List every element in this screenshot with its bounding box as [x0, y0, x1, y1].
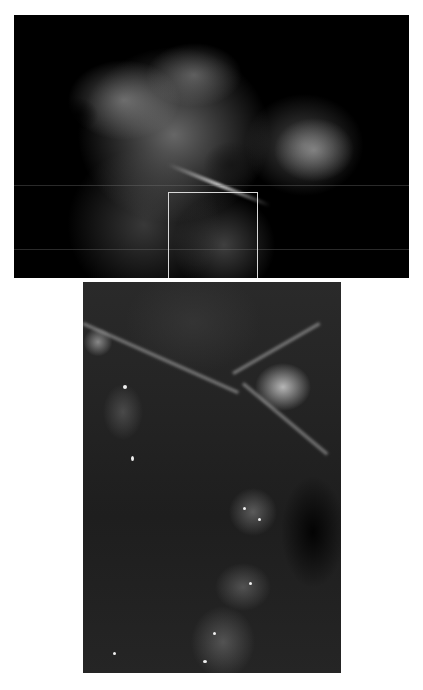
calcification-speck [213, 632, 216, 635]
calcification-speck [249, 582, 252, 585]
region-of-interest-box [168, 192, 258, 278]
mammogram-overview [14, 15, 409, 278]
calcification-speck [203, 660, 207, 663]
calcification-speck [131, 456, 134, 461]
magnified-roi [83, 282, 341, 673]
calcification-speck [113, 652, 116, 655]
scan-artifact-line [14, 185, 409, 186]
calcification-speck [258, 518, 261, 521]
calcification-speck [243, 507, 246, 510]
calcification-speck [123, 385, 127, 389]
